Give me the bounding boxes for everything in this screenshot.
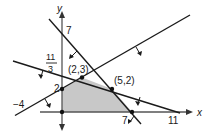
x-intercept-neg4-label: −4 — [13, 99, 25, 110]
y-intercept-7-label: 7 — [66, 25, 72, 36]
x-intercept-7-label: 7 — [122, 115, 128, 126]
vertex-7-0-dot — [130, 110, 134, 114]
x-intercept-11-label: 11 — [168, 115, 179, 126]
x-axis-arrow-icon — [186, 109, 193, 115]
direction-arrow-icon — [46, 103, 51, 108]
x-axis-label: x — [196, 107, 203, 118]
lp-diagram: y x 7 11 3 2 −4 7 11 (2,3) (5,2) — [0, 0, 209, 137]
vertex-2-3-dot — [80, 75, 84, 79]
y-axis-label: y — [56, 3, 63, 14]
direction-arrow-icon — [135, 101, 140, 106]
vertex-5-2-dot — [110, 87, 114, 91]
vertex-5-2-label: (5,2) — [114, 75, 135, 86]
direction-arrow-icon — [137, 51, 142, 56]
vertex-0-2-dot — [60, 87, 64, 91]
vertex-origin-dot — [60, 110, 64, 114]
y-intercept-11-denominator: 3 — [48, 64, 53, 74]
vertex-2-3-label: (2,3) — [68, 64, 89, 75]
y-intercept-2-label: 2 — [54, 83, 60, 94]
diagram-canvas: y x 7 11 3 2 −4 7 11 (2,3) (5,2) — [0, 0, 209, 137]
direction-arrow-icon — [38, 74, 43, 79]
y-axis-down-arrow-icon — [59, 124, 65, 131]
y-intercept-11-numerator: 11 — [46, 52, 55, 62]
